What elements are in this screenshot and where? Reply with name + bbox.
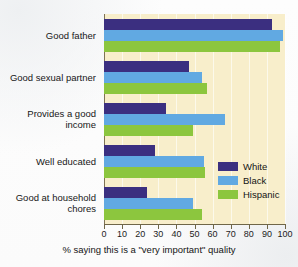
category-label-line: Good father	[0, 30, 96, 41]
category-label: Good sexual partner	[0, 72, 96, 83]
category-label-line: Good sexual partner	[0, 72, 96, 83]
bar-white-well-educated	[104, 145, 155, 156]
legend-swatch-black-icon	[218, 176, 238, 185]
x-axis-tick-label: 80	[239, 229, 259, 240]
bar-black-good-sexual-partner	[104, 72, 202, 83]
x-axis-tick-label: 0	[94, 229, 114, 240]
x-axis-tick-label: 40	[166, 229, 186, 240]
bar-hispanic-provides-a-good-income	[104, 125, 193, 136]
legend: White Black Hispanic	[218, 160, 279, 202]
x-axis-tick-label: 10	[112, 229, 132, 240]
bar-white-provides-a-good-income	[104, 103, 166, 114]
x-axis-tick-label: 70	[221, 229, 241, 240]
bar-white-good-father	[104, 19, 272, 30]
bar-hispanic-good-at-household-chores	[104, 209, 202, 220]
legend-swatch-hispanic-icon	[218, 190, 238, 199]
bar-hispanic-good-father	[104, 41, 280, 52]
grouped-bar-chart: 0102030405060708090100 Good fatherGood s…	[0, 0, 298, 267]
bar-black-well-educated	[104, 156, 204, 167]
x-axis-tick-label: 50	[185, 229, 205, 240]
category-label-line: Good at household	[0, 192, 96, 203]
x-axis-tick-label: 90	[257, 229, 277, 240]
legend-label-white: White	[243, 161, 267, 172]
category-label-line: chores	[0, 203, 96, 214]
bar-group	[104, 61, 285, 94]
legend-item-white: White	[218, 160, 279, 173]
x-axis-title: % saying this is a "very important" qual…	[0, 244, 298, 255]
category-label-line: Well educated	[0, 156, 96, 167]
legend-label-black: Black	[243, 175, 266, 186]
bar-black-provides-a-good-income	[104, 114, 225, 125]
category-label: Well educated	[0, 156, 96, 167]
bar-white-good-at-household-chores	[104, 187, 147, 198]
bar-hispanic-good-sexual-partner	[104, 83, 207, 94]
legend-label-hispanic: Hispanic	[243, 189, 279, 200]
category-label: Provides a goodincome	[0, 108, 96, 130]
bar-black-good-father	[104, 30, 283, 41]
x-axis-tick-label: 20	[130, 229, 150, 240]
category-label-line: Provides a good	[0, 108, 96, 119]
gridline	[285, 14, 286, 224]
bar-black-good-at-household-chores	[104, 198, 193, 209]
category-label-line: income	[0, 119, 96, 130]
category-label: Good father	[0, 30, 96, 41]
legend-item-black: Black	[218, 174, 279, 187]
bar-hispanic-well-educated	[104, 167, 205, 178]
legend-swatch-white-icon	[218, 162, 238, 171]
category-label: Good at householdchores	[0, 192, 96, 214]
legend-item-hispanic: Hispanic	[218, 188, 279, 201]
x-axis-tick-label: 60	[203, 229, 223, 240]
x-axis-tick-label: 100	[275, 229, 295, 240]
bar-white-good-sexual-partner	[104, 61, 189, 72]
x-axis-tick-label: 30	[148, 229, 168, 240]
bar-group	[104, 19, 285, 52]
bar-group	[104, 103, 285, 136]
